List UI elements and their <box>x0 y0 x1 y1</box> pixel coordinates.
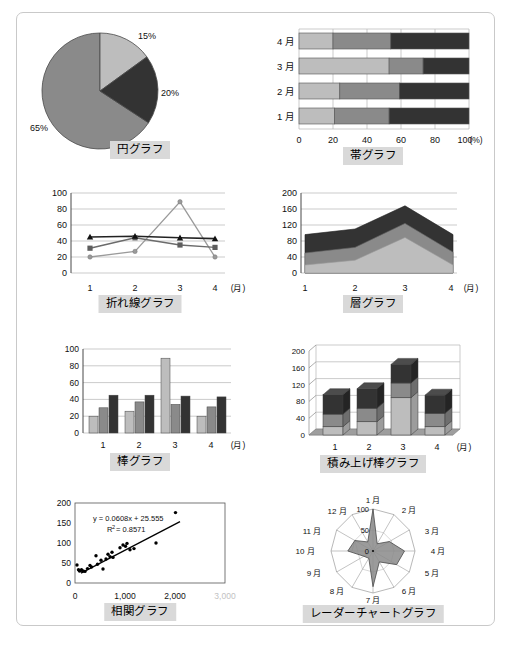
band-cat-4: 4 月 <box>277 36 295 47</box>
radar-cat-11: 11 月 <box>303 527 322 536</box>
band-row-3 <box>299 58 469 74</box>
line-xunit: (月) <box>231 283 246 293</box>
radar-cat-4: 4 月 <box>431 547 446 556</box>
area-xunit: (月) <box>464 283 479 293</box>
area-xtick-1: 1 <box>302 283 307 293</box>
scatter-svg: y = 0.0608x + 25.555 R 2 = 0.8571 200 15… <box>25 493 255 611</box>
radar-series <box>348 509 405 587</box>
scatter-ytick-200: 200 <box>57 498 71 508</box>
band-xtick-20: 20 <box>328 135 338 145</box>
bar-ytick-20: 20 <box>70 411 80 421</box>
area-xtick-2: 2 <box>352 283 357 293</box>
radar-cat-3: 3 月 <box>425 527 440 536</box>
chart-scatter: y = 0.0608x + 25.555 R 2 = 0.8571 200 15… <box>25 493 255 623</box>
chart-line: 100 80 60 40 20 0 1 2 3 4 (月) 折れ線グラフ <box>25 185 255 330</box>
caption-area: 層グラフ <box>343 295 403 313</box>
line-ytick-40: 40 <box>57 236 67 246</box>
scatter-r2-exponent: 2 <box>112 524 115 530</box>
bar-group-4 <box>197 397 226 433</box>
stacked-bar-ytick-40: 40 <box>296 414 305 423</box>
area-xtick-4: 4 <box>448 283 453 293</box>
scatter-r2-value: = 0.8571 <box>116 525 145 534</box>
bar-group-1 <box>89 395 118 433</box>
line-series-3 <box>90 236 215 238</box>
band-xunit: (%) <box>469 135 482 145</box>
caption-stacked-bar: 積み上げ棒グラフ <box>320 455 426 473</box>
stacked-bar-xtick-2: 2 <box>366 442 371 452</box>
bar-xunit: (月) <box>231 440 246 450</box>
band-row-4 <box>299 33 469 49</box>
stacked-bar-2 <box>357 383 384 435</box>
band-row-2 <box>299 83 469 99</box>
area-xtick-3: 3 <box>402 283 407 293</box>
caption-bar: 棒グラフ <box>110 453 170 471</box>
line-series-1 <box>90 202 215 257</box>
caption-band: 帯グラフ <box>343 147 403 165</box>
line-xtick-4: 4 <box>212 283 217 293</box>
bar-ytick-100: 100 <box>65 344 79 354</box>
area-ytick-0: 0 <box>292 268 297 278</box>
stacked-bar-3 <box>391 358 418 435</box>
stacked-bar-svg: 200 160 120 80 40 0 1 2 3 4 (月) <box>257 341 489 461</box>
stacked-bar-ytick-80: 80 <box>296 397 305 406</box>
scatter-ytick-50: 50 <box>62 558 72 568</box>
bar-ytick-40: 40 <box>70 394 80 404</box>
radar-cat-12: 12 月 <box>327 507 346 516</box>
scatter-ytick-0: 0 <box>66 578 71 588</box>
bar-xtick-3: 3 <box>172 440 177 450</box>
chart-radar: 100 50 0 1 月 2 月 3 月 4 月 5 月 6 月 7 月 8 月… <box>257 493 489 623</box>
radar-cat-10: 10 月 <box>295 547 314 556</box>
chart-bar: 100 80 60 40 20 0 1 2 3 4 (月) 棒グラフ <box>25 341 255 486</box>
area-ytick-80: 80 <box>287 236 297 246</box>
stacked-bar-1 <box>323 389 350 435</box>
radar-rtick-100: 100 <box>356 505 369 514</box>
area-ytick-160: 160 <box>282 204 297 214</box>
scatter-ytick-150: 150 <box>57 518 71 528</box>
bar-group-3 <box>161 358 190 433</box>
area-ytick-200: 200 <box>282 188 297 198</box>
radar-cat-9: 9 月 <box>307 569 322 578</box>
band-cat-3: 3 月 <box>277 61 295 72</box>
stacked-bar-ytick-200: 200 <box>292 347 306 356</box>
stacked-bar-xtick-3: 3 <box>400 442 405 452</box>
stacked-bar-ytick-120: 120 <box>292 381 306 390</box>
pie-label-20: 20% <box>161 88 179 98</box>
radar-center-dot <box>372 550 374 552</box>
line-ytick-100: 100 <box>52 188 67 198</box>
radar-svg: 100 50 0 1 月 2 月 3 月 4 月 5 月 6 月 7 月 8 月… <box>257 493 489 611</box>
stacked-bar-ytick-160: 160 <box>292 364 306 373</box>
line-xtick-1: 1 <box>87 283 92 293</box>
radar-rtick-50: 50 <box>361 526 369 535</box>
radar-cat-5: 5 月 <box>425 569 440 578</box>
caption-radar: レーダーチャートグラフ <box>303 605 444 623</box>
scatter-xtick-0: 0 <box>73 591 78 601</box>
line-ytick-0: 0 <box>62 268 67 278</box>
bar-svg: 100 80 60 40 20 0 1 2 3 4 (月) <box>25 341 255 461</box>
pie-label-65: 65% <box>30 123 48 133</box>
chart-area: 200 160 120 80 40 0 1 2 3 4 (月) 層グラフ <box>257 185 489 330</box>
scatter-ytick-100: 100 <box>57 538 71 548</box>
stacked-bar-xunit: (月) <box>457 442 472 452</box>
scatter-equation: y = 0.0608x + 25.555 <box>93 514 163 523</box>
pie-label-15: 15% <box>138 31 156 41</box>
graph-types-sheet: 15% 20% 65% 円グラフ <box>16 12 495 626</box>
band-xtick-80: 80 <box>430 135 440 145</box>
line-series-2 <box>90 238 215 248</box>
band-xtick-60: 60 <box>396 135 406 145</box>
radar-cat-8: 8 月 <box>330 587 345 596</box>
band-xtick-0: 0 <box>296 135 301 145</box>
scatter-xtick-1000: 1,000 <box>114 591 136 601</box>
scatter-xtick-2000: 2,000 <box>164 591 186 601</box>
bar-xtick-1: 1 <box>100 440 105 450</box>
radar-cat-1: 1 月 <box>366 496 381 505</box>
bar-xtick-4: 4 <box>208 440 213 450</box>
area-ytick-120: 120 <box>282 220 297 230</box>
radar-cat-6: 6 月 <box>402 587 417 596</box>
band-cat-1: 1 月 <box>277 111 295 122</box>
caption-scatter: 相関グラフ <box>104 603 176 621</box>
band-row-1 <box>299 108 469 124</box>
caption-line: 折れ線グラフ <box>99 295 182 313</box>
chart-band: 4 月 3 月 2 月 1 月 0 20 40 60 80 100 (%) 帯グ… <box>257 19 489 179</box>
radar-cat-7: 7 月 <box>366 596 381 605</box>
area-ytick-40: 40 <box>287 252 297 262</box>
